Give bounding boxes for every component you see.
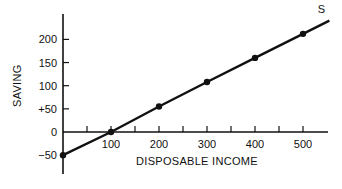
y-tick-label: −50	[38, 149, 57, 161]
data-point	[156, 103, 162, 109]
series-label: S	[318, 3, 325, 15]
data-point	[300, 31, 306, 37]
data-point	[252, 55, 258, 61]
x-tick-label: 100	[102, 138, 120, 150]
y-tick-label: +50	[38, 103, 57, 115]
saving-line	[63, 21, 329, 156]
y-tick-label: 200	[39, 33, 57, 45]
data-point	[204, 79, 210, 85]
x-tick-label: 500	[294, 138, 312, 150]
x-tick-label: 300	[198, 138, 216, 150]
y-tick-label: 150	[39, 57, 57, 69]
data-point	[60, 152, 66, 158]
x-tick-label: 200	[150, 138, 168, 150]
saving-function-chart: 100200300400500−500+50100150200DISPOSABL…	[0, 0, 342, 189]
y-tick-label: 0	[51, 126, 57, 138]
x-axis-title: DISPOSABLE INCOME	[136, 155, 258, 167]
y-tick-label: 100	[39, 80, 57, 92]
data-point	[108, 129, 114, 135]
x-tick-label: 400	[246, 138, 264, 150]
y-axis-title: SAVING	[11, 64, 23, 107]
